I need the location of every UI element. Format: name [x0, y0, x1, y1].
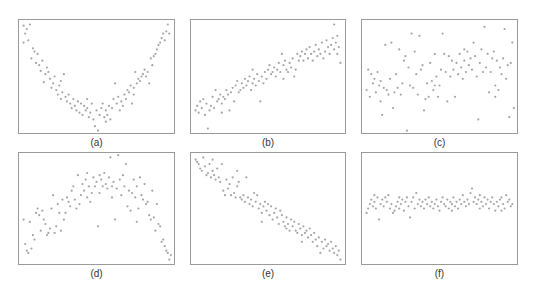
data-point: [265, 78, 267, 80]
data-point: [292, 225, 294, 227]
data-point: [75, 109, 77, 111]
data-point: [272, 71, 274, 73]
data-point: [313, 51, 315, 53]
data-point: [130, 84, 132, 86]
data-point: [389, 207, 391, 209]
scatter-points: [191, 20, 345, 133]
data-point: [482, 71, 484, 73]
data-point: [366, 89, 368, 91]
data-point: [134, 196, 136, 198]
data-point: [504, 207, 506, 209]
data-point: [299, 227, 301, 229]
data-point: [212, 170, 214, 172]
data-point: [386, 89, 388, 91]
data-point: [424, 98, 426, 100]
data-point: [508, 199, 510, 201]
data-point: [123, 94, 125, 96]
data-point: [398, 207, 400, 209]
data-point: [316, 245, 318, 247]
data-point: [255, 201, 257, 203]
data-point: [327, 46, 329, 48]
data-point: [145, 75, 147, 77]
data-point: [372, 82, 374, 84]
data-point: [71, 107, 73, 109]
caption-f: (f): [410, 268, 470, 279]
data-point: [33, 239, 35, 241]
data-point: [507, 201, 509, 203]
data-point: [89, 112, 91, 114]
data-point: [332, 37, 334, 39]
data-point: [105, 121, 107, 123]
caption-d: (d): [67, 268, 127, 279]
data-point: [114, 82, 116, 84]
data-point: [315, 44, 317, 46]
data-point: [412, 87, 414, 89]
data-point: [61, 199, 63, 201]
data-point: [81, 114, 83, 116]
data-point: [505, 78, 507, 80]
data-point: [60, 80, 62, 82]
data-point: [215, 179, 217, 181]
data-point: [201, 170, 203, 172]
data-point: [205, 174, 207, 176]
data-point: [412, 196, 414, 198]
data-point: [421, 201, 423, 203]
data-point: [460, 203, 462, 205]
data-point: [162, 33, 164, 35]
data-point: [390, 42, 392, 44]
data-point: [477, 118, 479, 120]
data-point: [130, 210, 132, 212]
data-point: [400, 94, 402, 96]
data-point: [131, 103, 133, 105]
data-point: [463, 201, 465, 203]
data-point: [46, 234, 48, 236]
data-point: [199, 167, 201, 169]
data-point: [471, 69, 473, 71]
data-point: [375, 91, 377, 93]
data-point: [202, 98, 204, 100]
data-point: [27, 39, 29, 41]
data-point: [157, 223, 159, 225]
scatter-points: [19, 153, 174, 264]
data-point: [136, 221, 138, 223]
data-point: [99, 192, 101, 194]
data-point: [451, 203, 453, 205]
data-point: [287, 71, 289, 73]
data-point: [196, 105, 198, 107]
data-point: [488, 91, 490, 93]
data-point: [95, 181, 97, 183]
data-point: [103, 172, 105, 174]
data-point: [38, 64, 40, 66]
data-point: [325, 39, 327, 41]
data-point: [94, 185, 96, 187]
data-point: [215, 89, 217, 91]
data-point: [298, 223, 300, 225]
data-point: [469, 57, 471, 59]
data-point: [154, 53, 156, 55]
data-point: [440, 201, 442, 203]
data-point: [285, 216, 287, 218]
data-point: [199, 100, 201, 102]
data-point: [105, 183, 107, 185]
data-point: [106, 187, 108, 189]
data-point: [167, 23, 169, 25]
data-point: [103, 116, 105, 118]
data-point: [68, 201, 70, 203]
data-point: [40, 70, 42, 72]
data-point: [47, 232, 49, 234]
data-point: [49, 78, 51, 80]
data-point: [116, 103, 118, 105]
scatter-points: [362, 20, 517, 133]
data-point: [23, 25, 25, 27]
data-point: [235, 84, 237, 86]
data-point: [369, 96, 371, 98]
caption-a: (a): [67, 137, 127, 148]
data-point: [218, 176, 220, 178]
data-point: [282, 221, 284, 223]
data-point: [210, 176, 212, 178]
data-point: [420, 69, 422, 71]
data-point: [195, 109, 197, 111]
data-point: [477, 199, 479, 201]
data-point: [71, 190, 73, 192]
data-point: [167, 252, 169, 254]
